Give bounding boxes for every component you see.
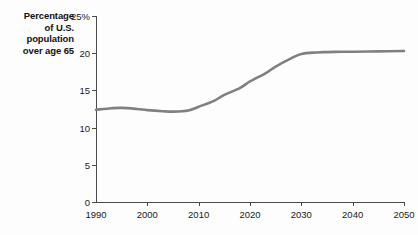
plot-area: 0510152025% 1990200020102020203020402050: [96, 16, 404, 202]
axis-title-line-1: Percentage: [0, 10, 74, 22]
chart-screenshot: Percentage of U.S. population over age 6…: [0, 0, 418, 235]
y-tick-label-25: 25%: [71, 11, 90, 22]
x-tick-2020: [250, 202, 251, 206]
y-tick-label-0: 0: [85, 197, 90, 208]
y-tick-0: [92, 202, 96, 203]
series-path-population-over-65: [96, 51, 404, 112]
axis-title-line-3: population: [0, 33, 74, 45]
x-tick-label-2040: 2040: [342, 209, 363, 220]
y-tick-label-5: 5: [85, 159, 90, 170]
x-tick-label-2020: 2020: [239, 209, 260, 220]
x-tick-2040: [353, 202, 354, 206]
y-tick-label-20: 20: [79, 48, 90, 59]
x-tick-2000: [147, 202, 148, 206]
x-tick-label-2030: 2030: [291, 209, 312, 220]
x-tick-label-2050: 2050: [393, 209, 414, 220]
series-line-chart: [96, 16, 404, 202]
y-tick-label-15: 15: [79, 85, 90, 96]
x-tick-label-2010: 2010: [188, 209, 209, 220]
y-tick-label-10: 10: [79, 122, 90, 133]
x-tick-2010: [199, 202, 200, 206]
x-tick-label-2000: 2000: [137, 209, 158, 220]
axis-title-line-4: over age 65: [0, 45, 74, 57]
chart-axis-title: Percentage of U.S. population over age 6…: [0, 10, 74, 56]
x-tick-label-1990: 1990: [85, 209, 106, 220]
x-tick-2050: [404, 202, 405, 206]
x-tick-2030: [301, 202, 302, 206]
axis-title-line-2: of U.S.: [0, 22, 74, 34]
